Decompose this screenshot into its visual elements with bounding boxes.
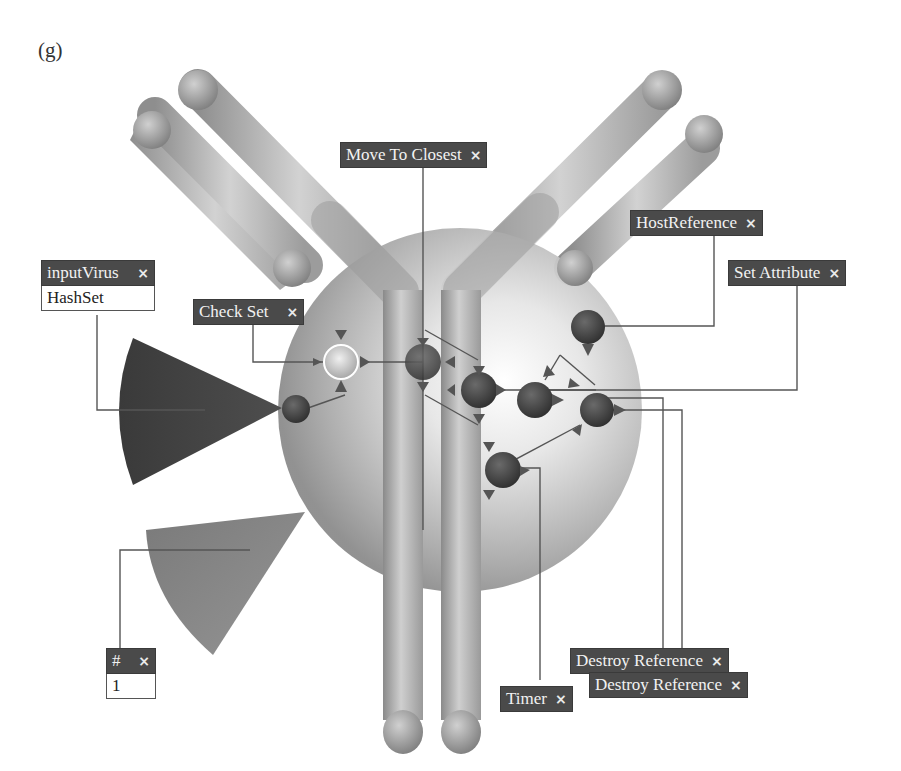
- node-destroy-reference-2[interactable]: Destroy Reference ×: [589, 672, 748, 698]
- node-header[interactable]: Destroy Reference ×: [589, 672, 748, 698]
- node-destroy-reference-1[interactable]: Destroy Reference ×: [570, 648, 729, 674]
- close-icon[interactable]: ×: [711, 648, 723, 674]
- panel-label: (g): [38, 38, 63, 63]
- close-icon[interactable]: ×: [828, 260, 840, 286]
- node-title: Destroy Reference: [595, 672, 722, 698]
- node-header[interactable]: # ×: [106, 648, 156, 674]
- close-icon[interactable]: ×: [555, 686, 567, 712]
- tube-vertical-right: [441, 290, 481, 754]
- cone-dark: [119, 338, 282, 485]
- close-icon[interactable]: ×: [286, 299, 298, 325]
- close-icon[interactable]: ×: [138, 648, 150, 674]
- node-title: #: [112, 648, 130, 674]
- node-header[interactable]: Check Set ×: [193, 299, 304, 325]
- node-header[interactable]: Destroy Reference ×: [570, 648, 729, 674]
- node-title: Timer: [506, 686, 547, 712]
- node-timer[interactable]: Timer ×: [500, 686, 573, 712]
- node-set-attribute[interactable]: Set Attribute ×: [728, 260, 846, 286]
- cone-light: [146, 512, 305, 655]
- node-title: Set Attribute: [734, 260, 820, 286]
- node-header[interactable]: inputVirus ×: [41, 260, 155, 286]
- node-header[interactable]: HostReference ×: [630, 210, 763, 236]
- node-number[interactable]: # × 1: [106, 648, 156, 699]
- input-virus-value-field[interactable]: HashSet: [41, 286, 155, 311]
- close-icon[interactable]: ×: [470, 142, 482, 168]
- node-check-set[interactable]: Check Set ×: [193, 299, 304, 325]
- visual-program-canvas: (g) Move To Closest × HostReference × Se…: [0, 0, 901, 771]
- node-title: Destroy Reference: [576, 648, 703, 674]
- close-icon[interactable]: ×: [745, 210, 757, 236]
- node-title: Check Set: [199, 299, 268, 325]
- node-header[interactable]: Set Attribute ×: [728, 260, 846, 286]
- node-host-reference[interactable]: HostReference ×: [630, 210, 763, 236]
- node-title: HostReference: [636, 210, 737, 236]
- node-title: Move To Closest: [346, 142, 462, 168]
- node-move-to-closest[interactable]: Move To Closest ×: [340, 142, 487, 168]
- close-icon[interactable]: ×: [730, 672, 742, 698]
- node-title: inputVirus: [47, 260, 129, 286]
- node-header[interactable]: Move To Closest ×: [340, 142, 487, 168]
- node-header[interactable]: Timer ×: [500, 686, 573, 712]
- close-icon[interactable]: ×: [137, 260, 149, 286]
- node-input-virus[interactable]: inputVirus × HashSet: [41, 260, 155, 311]
- number-value-field[interactable]: 1: [106, 674, 156, 699]
